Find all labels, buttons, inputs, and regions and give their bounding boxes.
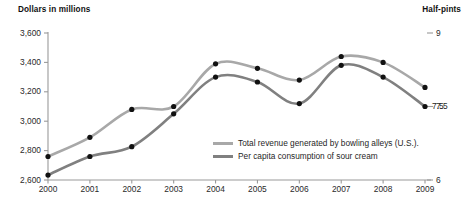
legend-swatch-icon xyxy=(213,142,233,145)
legend-item-2[interactable]: Per capita consumption of sour cream xyxy=(213,151,378,161)
data-point xyxy=(45,173,50,178)
data-point xyxy=(213,75,218,80)
data-point xyxy=(297,101,302,106)
data-point xyxy=(422,104,427,109)
data-point xyxy=(381,75,386,80)
legend-label: Per capita consumption of sour cream xyxy=(238,151,378,161)
chart-container: Dollars in millions Half-pints 3,6003,40… xyxy=(0,0,469,204)
data-point xyxy=(45,154,50,159)
y-axis-label-left: 2,800 xyxy=(0,145,41,155)
data-point xyxy=(381,60,386,65)
x-axis-label: 2000 xyxy=(32,184,64,194)
data-point xyxy=(422,85,427,90)
y-axis-label-left: 3,000 xyxy=(0,116,41,126)
y-axis-label-left: 2,600 xyxy=(0,175,41,185)
data-point xyxy=(87,154,92,159)
x-axis-label: 2006 xyxy=(283,184,315,194)
x-axis-label: 2002 xyxy=(116,184,148,194)
y-axis-label-right: 6 xyxy=(436,175,441,185)
data-point xyxy=(255,79,260,84)
x-axis-label: 2001 xyxy=(74,184,106,194)
data-point xyxy=(87,135,92,140)
x-axis-label: 2005 xyxy=(241,184,273,194)
x-axis-label: 2009 xyxy=(409,184,441,194)
data-point xyxy=(129,107,134,112)
data-point xyxy=(339,54,344,59)
series-end-value-label: 7.5 xyxy=(432,101,444,111)
data-point xyxy=(213,61,218,66)
data-point xyxy=(339,63,344,68)
data-point xyxy=(255,66,260,71)
plot-area xyxy=(0,0,469,204)
legend-item-1[interactable]: Total revenue generated by bowling alley… xyxy=(213,138,419,148)
y-axis-label-left: 3,400 xyxy=(0,57,41,67)
x-axis-label: 2008 xyxy=(367,184,399,194)
x-axis-label: 2007 xyxy=(325,184,357,194)
y-axis-label-left: 3,600 xyxy=(0,28,41,38)
y-axis-label-right: 9 xyxy=(436,28,441,38)
x-axis-label: 2003 xyxy=(158,184,190,194)
y-axis-label-left: 3,200 xyxy=(0,86,41,96)
legend-swatch-icon xyxy=(213,155,233,158)
legend-label: Total revenue generated by bowling alley… xyxy=(238,138,419,148)
data-point xyxy=(297,77,302,82)
data-point xyxy=(129,144,134,149)
x-axis-label: 2004 xyxy=(200,184,232,194)
data-point xyxy=(171,104,176,109)
data-point xyxy=(171,111,176,116)
